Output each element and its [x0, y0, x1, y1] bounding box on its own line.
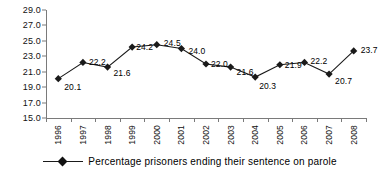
data-point-marker [227, 63, 234, 70]
x-axis-tick-mark [268, 118, 269, 122]
data-point-label: 24.0 [188, 46, 205, 56]
line-chart: 15.017.019.021.023.025.027.029.0 1996199… [0, 0, 380, 179]
data-point-marker [276, 61, 283, 68]
x-axis-tick-mark [169, 118, 170, 122]
data-point-label: 21.6 [237, 67, 254, 77]
x-axis-tick-mark [46, 118, 47, 122]
x-axis-tick-label: 2004 [250, 125, 260, 145]
x-axis-tick-label: 1996 [53, 125, 63, 145]
x-axis-tick-mark [194, 118, 195, 122]
x-axis-tick-label: 2003 [226, 125, 236, 145]
data-point-label: 20.1 [64, 82, 81, 92]
x-axis-tick-mark [71, 118, 72, 122]
data-point-marker [153, 41, 160, 48]
x-axis-tick-mark [243, 118, 244, 122]
x-axis-tick-label: 1999 [127, 125, 137, 145]
data-point-label: 22.2 [310, 56, 327, 66]
x-axis-tick-mark [144, 118, 145, 122]
data-point-label: 24.2 [136, 42, 153, 52]
data-point-marker [55, 75, 62, 82]
x-axis-tick-mark [218, 118, 219, 122]
data-point-label: 22.2 [89, 57, 106, 67]
x-axis-tick-mark [95, 118, 96, 122]
plot-area: 15.017.019.021.023.025.027.029.0 1996199… [46, 10, 366, 118]
data-point-marker [79, 59, 86, 66]
data-point-label: 23.7 [361, 45, 378, 55]
x-axis-tick-label: 1997 [78, 125, 88, 145]
legend-swatch [43, 156, 83, 167]
data-point-label: 20.3 [259, 81, 276, 91]
data-point-label: 20.7 [335, 76, 352, 86]
x-axis-tick-label: 2001 [176, 125, 186, 145]
x-axis-tick-label: 2006 [299, 125, 309, 145]
x-axis-tick-label: 2005 [275, 125, 285, 145]
x-axis-tick-label: 2007 [324, 125, 334, 145]
chart-legend: Percentage prisoners ending their senten… [0, 156, 380, 167]
x-axis-tick-label: 2008 [349, 125, 359, 145]
data-point-label: 21.9 [285, 60, 302, 70]
x-axis-tick-mark [120, 118, 121, 122]
x-axis-tick-label: 2000 [152, 125, 162, 145]
x-axis-tick-label: 1998 [103, 125, 113, 145]
data-point-label: 21.6 [114, 68, 131, 78]
x-axis-tick-mark [366, 118, 367, 122]
x-axis-tick-mark [317, 118, 318, 122]
data-point-marker [202, 60, 209, 67]
x-axis-tick-mark [341, 118, 342, 122]
x-axis-tick-mark [292, 118, 293, 122]
data-point-label: 24.5 [164, 38, 181, 48]
x-axis-line [46, 118, 366, 119]
x-axis-tick-label: 2002 [201, 125, 211, 145]
legend-label: Percentage prisoners ending their senten… [88, 156, 336, 167]
data-point-label: 22.0 [211, 59, 228, 69]
diamond-marker-icon [58, 157, 68, 167]
